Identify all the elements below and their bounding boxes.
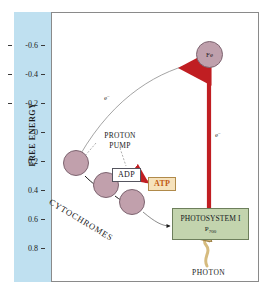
tick-label-1: -0.4 — [12, 70, 38, 79]
node-fe-label: Fe — [206, 51, 213, 59]
node-fe: Fe — [196, 41, 223, 68]
tick-mark-out-6 — [41, 219, 45, 220]
tick-label-0: -0.6 — [12, 41, 38, 50]
proton-pump-label-line1: PROTON — [92, 131, 148, 140]
tick-label-5: 0.4 — [12, 186, 38, 195]
photosystem-i-box: PHOTOSYSTEM I P700 — [172, 208, 249, 240]
tick-mark-out-0 — [41, 45, 45, 46]
node-cytochrome-1 — [63, 150, 89, 176]
electron-label-right: e– — [215, 130, 221, 139]
tick-label-6: 0.6 — [12, 215, 38, 224]
tick-mark-in-2 — [8, 103, 12, 104]
node-cytochrome-3 — [119, 189, 145, 215]
figure-root: FREE ENERGY -0.6 -0.4 -0.2 0 0.2 0.4 0.6… — [0, 0, 272, 298]
tick-mark-in-0 — [8, 45, 12, 46]
tick-mark-out-7 — [41, 248, 45, 249]
photosystem-i-subtitle: P700 — [205, 225, 216, 234]
energy-axis-band: FREE ENERGY — [14, 12, 52, 282]
tick-mark-out-3 — [41, 132, 45, 133]
atp-box: ATP — [148, 177, 176, 191]
tick-mark-out-4 — [41, 161, 45, 162]
tick-label-3: 0 — [12, 128, 38, 137]
photosystem-i-title: PHOTOSYSTEM I — [180, 214, 240, 223]
tick-label-4: 0.2 — [12, 157, 38, 166]
tick-mark-in-1 — [8, 74, 12, 75]
tick-label-7: 0.8 — [12, 244, 38, 253]
proton-pump-label-line2: PUMP — [92, 141, 148, 150]
tick-mark-out-1 — [41, 74, 45, 75]
adp-box: ADP — [112, 168, 141, 182]
tick-mark-out-5 — [41, 190, 45, 191]
tick-mark-out-2 — [41, 103, 45, 104]
photon-label: PHOTON — [192, 268, 225, 277]
electron-label-left: e– — [104, 93, 110, 102]
tick-label-2: -0.2 — [12, 99, 38, 108]
